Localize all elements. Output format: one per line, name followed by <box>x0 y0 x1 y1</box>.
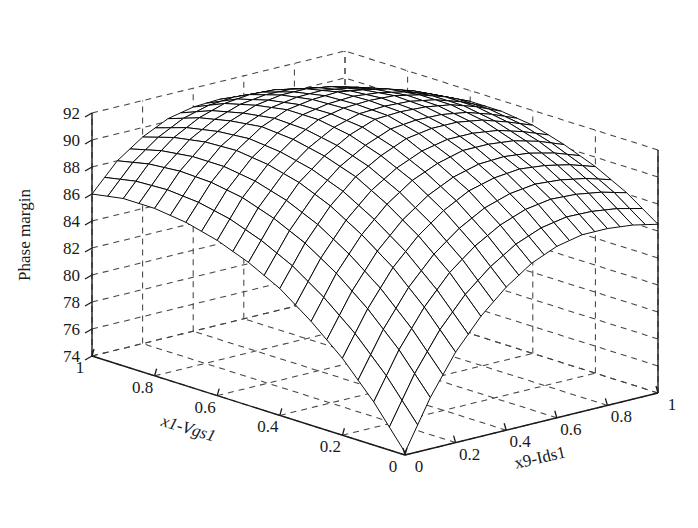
x9-tick-label: 1 <box>668 395 677 414</box>
x9-tick-label: 0.6 <box>560 420 581 439</box>
z-tick-label: 78 <box>63 293 80 312</box>
z-tick-label: 88 <box>63 158 80 177</box>
x1-tick-label: 0 <box>389 457 398 476</box>
x1-tick-label: 0.6 <box>195 398 216 417</box>
x1-tick-label: 0.8 <box>132 378 153 397</box>
z-tick-label: 90 <box>63 131 80 150</box>
z-tick-label: 92 <box>63 104 80 123</box>
x1-tick-label: 0.4 <box>257 417 279 436</box>
x9-tick-label: 0.4 <box>510 432 532 451</box>
x1-tick-label: 1 <box>76 358 85 377</box>
z-tick-label: 82 <box>63 239 80 258</box>
z-tick-label: 80 <box>63 266 80 285</box>
x9-tick-label: 0.8 <box>611 407 632 426</box>
z-tick-label: 76 <box>63 320 80 339</box>
surface-plot-figure: 7476788082848688909210.80.60.40.2000.20.… <box>0 0 698 528</box>
x1-tick-label: 0.2 <box>320 437 341 456</box>
x9-tick-label: 0.2 <box>459 445 480 464</box>
z-tick-label: 84 <box>63 212 81 231</box>
x9-tick-label: 0 <box>415 457 424 476</box>
z-tick-label: 86 <box>63 185 80 204</box>
plot-canvas: 7476788082848688909210.80.60.40.2000.20.… <box>0 0 698 528</box>
z-axis-title: Phase margin <box>15 189 34 281</box>
